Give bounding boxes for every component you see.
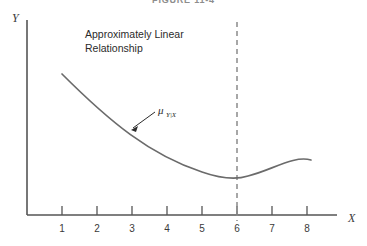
x-tick-label: 1 (59, 223, 65, 234)
x-tick-labels: 1 2 3 4 5 6 7 8 (59, 223, 310, 234)
plot-area: Y X 1 2 3 4 5 6 7 8 (0, 0, 367, 246)
curve-label-leader-line (133, 112, 155, 128)
annotation-line-2: Relationship (85, 42, 143, 54)
x-tick-label: 6 (234, 223, 240, 234)
x-tick-label: 5 (199, 223, 205, 234)
x-tick-label: 8 (304, 223, 310, 234)
y-axis-label: Y (12, 11, 20, 25)
curve-label-subscript: Y|X (166, 111, 177, 119)
x-axis-label: X (347, 211, 356, 225)
curve-label-symbol: μ (157, 104, 164, 116)
figure-container: FIGURE 11-4 Y X 1 2 3 4 5 6 7 (0, 0, 367, 246)
x-tick-label: 4 (164, 223, 170, 234)
annotation-line-1: Approximately Linear (85, 28, 184, 40)
x-tick-marks (62, 206, 307, 215)
x-tick-label: 3 (129, 223, 135, 234)
x-tick-label: 2 (94, 223, 100, 234)
x-tick-label: 7 (269, 223, 275, 234)
regression-curve (62, 74, 311, 178)
